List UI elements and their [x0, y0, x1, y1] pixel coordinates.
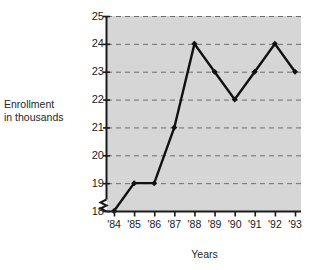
enrollment-line-chart: Enrollment in thousands 1819202122232425… [0, 0, 313, 270]
x-axis-tick-label: '93 [282, 218, 308, 230]
axis-break-symbol [101, 200, 107, 212]
x-axis-tick-labels: '84'85'86'87'88'89'90'91'92'93 [107, 218, 301, 234]
x-axis-label: Years [107, 248, 302, 260]
